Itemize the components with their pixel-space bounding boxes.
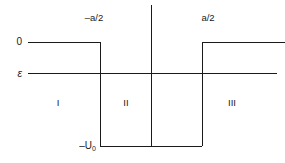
boundary-label-right: a/2 (201, 13, 214, 23)
potential-well-figure: 0 ε –a/2 a/2 –U0 I II III (0, 0, 285, 163)
boundary-label-left: –a/2 (85, 13, 104, 23)
axis-label-energy-epsilon: ε (17, 68, 22, 79)
depth-label-prefix: –U (79, 140, 92, 151)
region-label-i: I (57, 98, 60, 108)
region-label-iii: III (228, 98, 236, 108)
depth-label-subscript: 0 (92, 145, 96, 152)
potential-well-plot (0, 0, 285, 163)
depth-label-minus-u0: –U0 (79, 141, 96, 151)
region-label-ii: II (123, 98, 128, 108)
axis-label-zero: 0 (16, 37, 22, 47)
